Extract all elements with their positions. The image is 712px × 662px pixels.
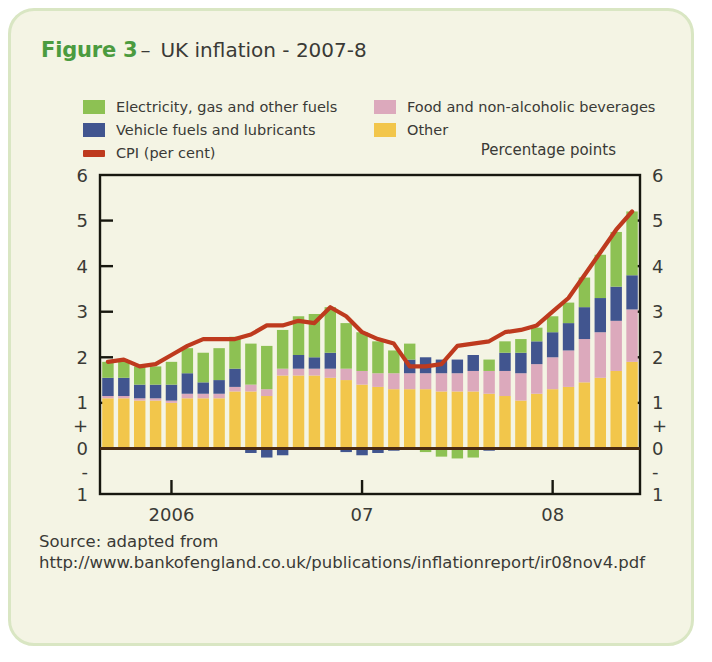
svg-text:-: - bbox=[82, 461, 89, 482]
svg-text:1: 1 bbox=[77, 392, 88, 413]
svg-text:08: 08 bbox=[541, 504, 564, 525]
svg-text:6: 6 bbox=[77, 165, 88, 186]
svg-text:2: 2 bbox=[77, 347, 88, 368]
figure-card: Figure 3–UK inflation - 2007-8 Electrici… bbox=[8, 8, 694, 646]
svg-text:2006: 2006 bbox=[149, 504, 195, 525]
svg-text:5: 5 bbox=[77, 210, 88, 231]
svg-text:07: 07 bbox=[351, 504, 374, 525]
svg-text:3: 3 bbox=[77, 301, 88, 322]
svg-text:+: + bbox=[73, 415, 88, 436]
svg-text:0: 0 bbox=[77, 438, 88, 459]
svg-text:+: + bbox=[652, 415, 667, 436]
svg-text:4: 4 bbox=[652, 256, 663, 277]
svg-text:5: 5 bbox=[652, 210, 663, 231]
svg-text:1: 1 bbox=[652, 484, 663, 505]
source-note: Source: adapted from http://www.bankofen… bbox=[39, 531, 679, 574]
svg-text:0: 0 bbox=[652, 438, 663, 459]
svg-text:-: - bbox=[652, 461, 659, 482]
svg-text:3: 3 bbox=[652, 301, 663, 322]
svg-text:1: 1 bbox=[77, 484, 88, 505]
svg-text:4: 4 bbox=[77, 256, 88, 277]
svg-text:1: 1 bbox=[652, 392, 663, 413]
svg-text:6: 6 bbox=[652, 165, 663, 186]
source-line-1: Source: adapted from bbox=[39, 531, 679, 552]
source-line-2: http://www.bankofengland.co.uk/publicati… bbox=[39, 552, 679, 573]
svg-text:2: 2 bbox=[652, 347, 663, 368]
